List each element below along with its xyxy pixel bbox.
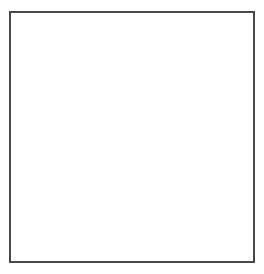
go-board[interactable]	[9, 11, 255, 263]
go-diagram-container	[0, 0, 264, 274]
